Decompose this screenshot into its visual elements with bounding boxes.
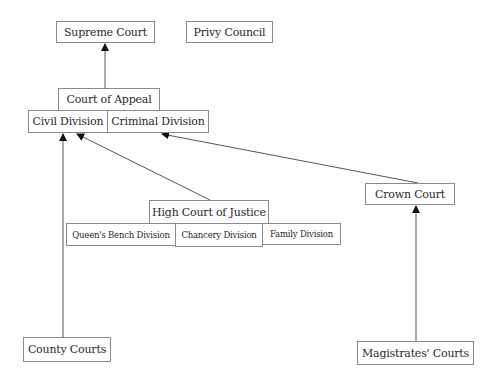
arrow-crown-to-criminal [162, 134, 418, 183]
node-high-court: High Court of Justice [149, 200, 269, 224]
node-county-courts: County Courts [23, 337, 111, 362]
node-magistrates-courts: Magistrates' Courts [357, 341, 474, 365]
node-civil-division: Civil Division [28, 110, 108, 133]
node-chancery-division: Chancery Division [175, 223, 263, 247]
node-queens-bench-division: Queen's Bench Division [66, 223, 176, 246]
node-court-of-appeal: Court of Appeal [58, 88, 160, 111]
node-family-division: Family Division [262, 223, 341, 245]
node-criminal-division: Criminal Division [107, 110, 209, 133]
node-supreme-court: Supreme Court [56, 21, 155, 43]
arrow-highcourt-to-civil [77, 134, 210, 200]
node-privy-council: Privy Council [186, 21, 273, 43]
node-crown-court: Crown Court [365, 183, 455, 205]
